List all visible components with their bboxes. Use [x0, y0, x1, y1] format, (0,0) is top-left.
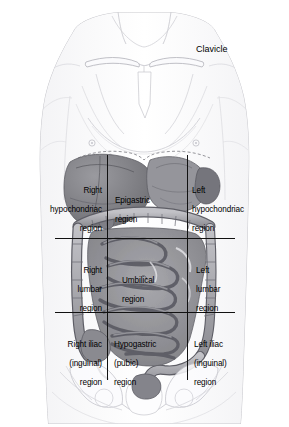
- region-line-3: region: [26, 304, 102, 314]
- region-label-right-hypochondriac: Right hypochondriac region: [12, 176, 102, 243]
- region-line-1: Left iliac: [194, 340, 274, 350]
- vertical-gridline-left: [107, 155, 108, 380]
- region-line-2: (inguinal): [18, 359, 102, 369]
- region-label-left-hypochondriac: Left hypochondriac region: [192, 176, 284, 243]
- region-line-2: hypochondriac: [12, 205, 102, 215]
- region-line-1: Right iliac: [18, 340, 102, 350]
- region-line-2: (pubic): [114, 359, 186, 369]
- region-label-umbilical: Umbilical region: [122, 266, 186, 314]
- region-line-2: hypochondriac: [192, 205, 284, 215]
- region-line-1: Right: [26, 266, 102, 276]
- region-line-2: (inguinal): [194, 359, 274, 369]
- region-label-right-lumbar: Right lumbar region: [26, 256, 102, 323]
- region-label-left-lumbar: Left lumbar region: [196, 256, 274, 323]
- region-line-3: region: [12, 224, 102, 234]
- region-line-1: Epigastric: [115, 196, 181, 206]
- clavicle-label: Clavicle: [196, 44, 228, 54]
- region-line-3: region: [18, 378, 102, 388]
- region-line-1: Right: [12, 186, 102, 196]
- region-line-3: region: [194, 378, 274, 388]
- region-label-hypogastric: Hypogastric (pubic) region: [114, 330, 186, 397]
- region-line-1: Umbilical: [122, 276, 186, 286]
- region-line-1: Hypogastric: [114, 340, 186, 350]
- region-line-3: region: [192, 224, 284, 234]
- region-label-epigastric: Epigastric region: [115, 186, 181, 234]
- region-line-3: region: [196, 304, 274, 314]
- region-line-3: region: [114, 378, 186, 388]
- region-line-2: lumbar: [26, 285, 102, 295]
- region-line-2: region: [115, 215, 181, 225]
- region-line-2: lumbar: [196, 285, 274, 295]
- region-line-1: Left: [196, 266, 274, 276]
- region-label-left-iliac: Left iliac (inguinal) region: [194, 330, 274, 397]
- region-line-1: Left: [192, 186, 284, 196]
- abdominopelvic-regions-figure: Clavicle Right hypochondriac region Epig…: [0, 0, 289, 427]
- region-label-right-iliac: Right iliac (inguinal) region: [18, 330, 102, 397]
- region-line-2: region: [122, 295, 186, 305]
- vertical-gridline-right: [187, 155, 188, 380]
